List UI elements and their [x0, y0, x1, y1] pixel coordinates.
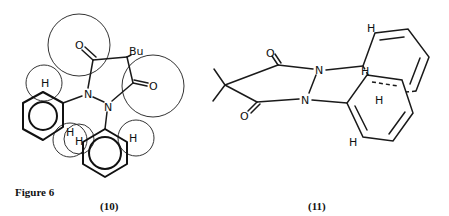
atom-oxygen-top: O: [75, 39, 84, 52]
substituent-butyl: Bu: [129, 45, 144, 58]
phenyl-ring-lower: [347, 75, 413, 141]
atom-hydrogen-mid-2: H: [75, 135, 83, 148]
compound-label-10: (10): [100, 200, 119, 213]
figure-title: Figure 6: [15, 186, 55, 198]
atom-hydrogen-mid-1: H: [66, 126, 74, 139]
compound-label-11: (11): [308, 200, 326, 213]
atom-hydrogen-top-left: H: [41, 77, 49, 90]
atom-nitrogen-2: N: [104, 101, 112, 114]
atom-hydrogen-top: H: [367, 22, 375, 35]
atom-nitrogen-1: N: [315, 64, 323, 77]
atom-hydrogen-bottom: H: [349, 136, 357, 149]
phenyl-ring-left: [23, 92, 63, 140]
atom-hydrogen-right: H: [129, 132, 137, 145]
atom-hydrogen-mid-2: H: [375, 94, 383, 107]
atom-oxygen-right: O: [149, 80, 158, 93]
pyrazolidinedione-ring: [63, 47, 148, 129]
compound-11-structure: O O N N H H H H: [213, 22, 429, 149]
atom-oxygen-bottom: O: [240, 110, 249, 123]
atom-nitrogen-2: N: [301, 94, 309, 107]
phenyl-ring-bottom: [83, 129, 127, 177]
atom-oxygen-top: O: [266, 47, 275, 60]
atom-hydrogen-mid-1: H: [361, 65, 369, 78]
compound-10-structure: O O Bu N N H H H H: [23, 14, 184, 177]
figure-canvas: O O Bu N N H H H H: [0, 0, 449, 216]
atom-nitrogen-1: N: [84, 88, 92, 101]
